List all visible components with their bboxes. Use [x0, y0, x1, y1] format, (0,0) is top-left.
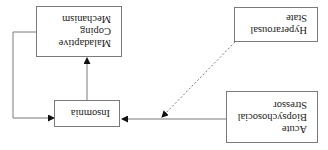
stressor-line-3: Stressor [238, 99, 307, 111]
node-hyperarousal-state: Hyperarousal State [234, 7, 318, 42]
edge-hyperarousal-to-link [162, 42, 235, 117]
node-maladaptive-coping-mechanism: Maladaptive Coping Mechanism [36, 6, 122, 57]
coping-line-2: Coping [59, 25, 111, 37]
hyperarousal-line-2: State [250, 12, 307, 24]
node-insomnia: Insomnia [54, 100, 120, 127]
node-acute-biopsychosocial-stressor: Acute Biopsychosocial Stressor [226, 91, 318, 143]
stressor-line-1: Acute [238, 123, 307, 135]
coping-line-1: Maladaptive [59, 37, 111, 49]
insomnia-label: Insomnia [71, 107, 110, 119]
hyperarousal-line-1: Hyperarousal [250, 24, 307, 36]
diagram-canvas: Acute Biopsychosocial Stressor Hyperarou… [0, 0, 328, 150]
stressor-line-2: Biopsychosocial [238, 111, 307, 123]
coping-line-3: Mechanism [59, 13, 111, 25]
